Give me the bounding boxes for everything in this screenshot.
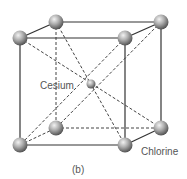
atom-front-top-right bbox=[118, 31, 133, 46]
figure-caption: (b) bbox=[72, 164, 84, 175]
atom-back-bottom-right bbox=[154, 121, 169, 136]
diagonal-2 bbox=[20, 38, 125, 145]
atom-back-top-right bbox=[154, 15, 169, 30]
atom-front-top-left bbox=[13, 31, 28, 46]
atom-front-bottom-left bbox=[13, 138, 28, 153]
atom-front-bottom-right bbox=[118, 138, 133, 153]
cscl-unit-cell-diagram: Cesium Chlorine (b) bbox=[0, 0, 187, 179]
atom-back-top-left bbox=[49, 15, 64, 30]
cesium-label: Cesium bbox=[40, 80, 74, 91]
atom-back-bottom-left bbox=[49, 121, 64, 136]
cesium-atom bbox=[87, 80, 96, 89]
chlorine-label: Chlorine bbox=[141, 146, 179, 157]
